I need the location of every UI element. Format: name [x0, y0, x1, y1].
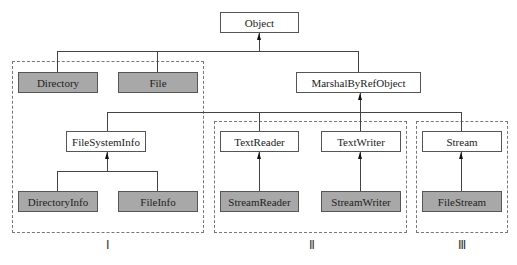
connector-directory: [57, 51, 58, 72]
arrowhead-filesysteminfo: [105, 152, 109, 159]
connector-filesysteminfo: [107, 112, 108, 131]
connector-textreader: [259, 112, 260, 131]
connector-stream: [461, 112, 462, 131]
connector-fileinfo: [157, 171, 158, 191]
node-file: File: [118, 72, 198, 93]
arrowhead-textwriter: [358, 152, 362, 159]
arrowhead-object: [257, 33, 261, 40]
connector-textwriter: [360, 112, 361, 131]
node-filestream: FileStream: [422, 191, 502, 212]
connector-level3-bar: [57, 171, 158, 172]
node-streamreader: StreamReader: [220, 191, 299, 212]
arrowhead-textreader: [257, 152, 261, 159]
group-2-label: Ⅱ: [309, 238, 315, 253]
arrowhead-stream: [459, 152, 463, 159]
node-stream: Stream: [422, 131, 502, 152]
connector-marshal: [358, 51, 359, 72]
node-directoryinfo: DirectoryInfo: [18, 191, 98, 212]
node-textwriter: TextWriter: [321, 131, 401, 152]
node-filesysteminfo: FileSystemInfo: [66, 131, 146, 152]
connector-level2-bar: [107, 112, 462, 113]
connector-directoryinfo: [57, 171, 58, 191]
connector-file: [157, 51, 158, 72]
group-3-label: Ⅲ: [458, 238, 466, 253]
node-marshalbyrefobject: MarshalByRefObject: [296, 72, 421, 93]
connector-level1-bar: [57, 51, 359, 52]
node-directory: Directory: [18, 72, 98, 93]
arrowhead-marshal: [358, 93, 362, 100]
node-object: Object: [220, 12, 299, 33]
node-streamwriter: StreamWriter: [321, 191, 401, 212]
group-1-label: Ⅰ: [106, 238, 110, 253]
class-hierarchy-diagram: Object Directory File MarshalByRefObject…: [0, 0, 517, 265]
node-textreader: TextReader: [220, 131, 299, 152]
node-fileinfo: FileInfo: [118, 191, 198, 212]
